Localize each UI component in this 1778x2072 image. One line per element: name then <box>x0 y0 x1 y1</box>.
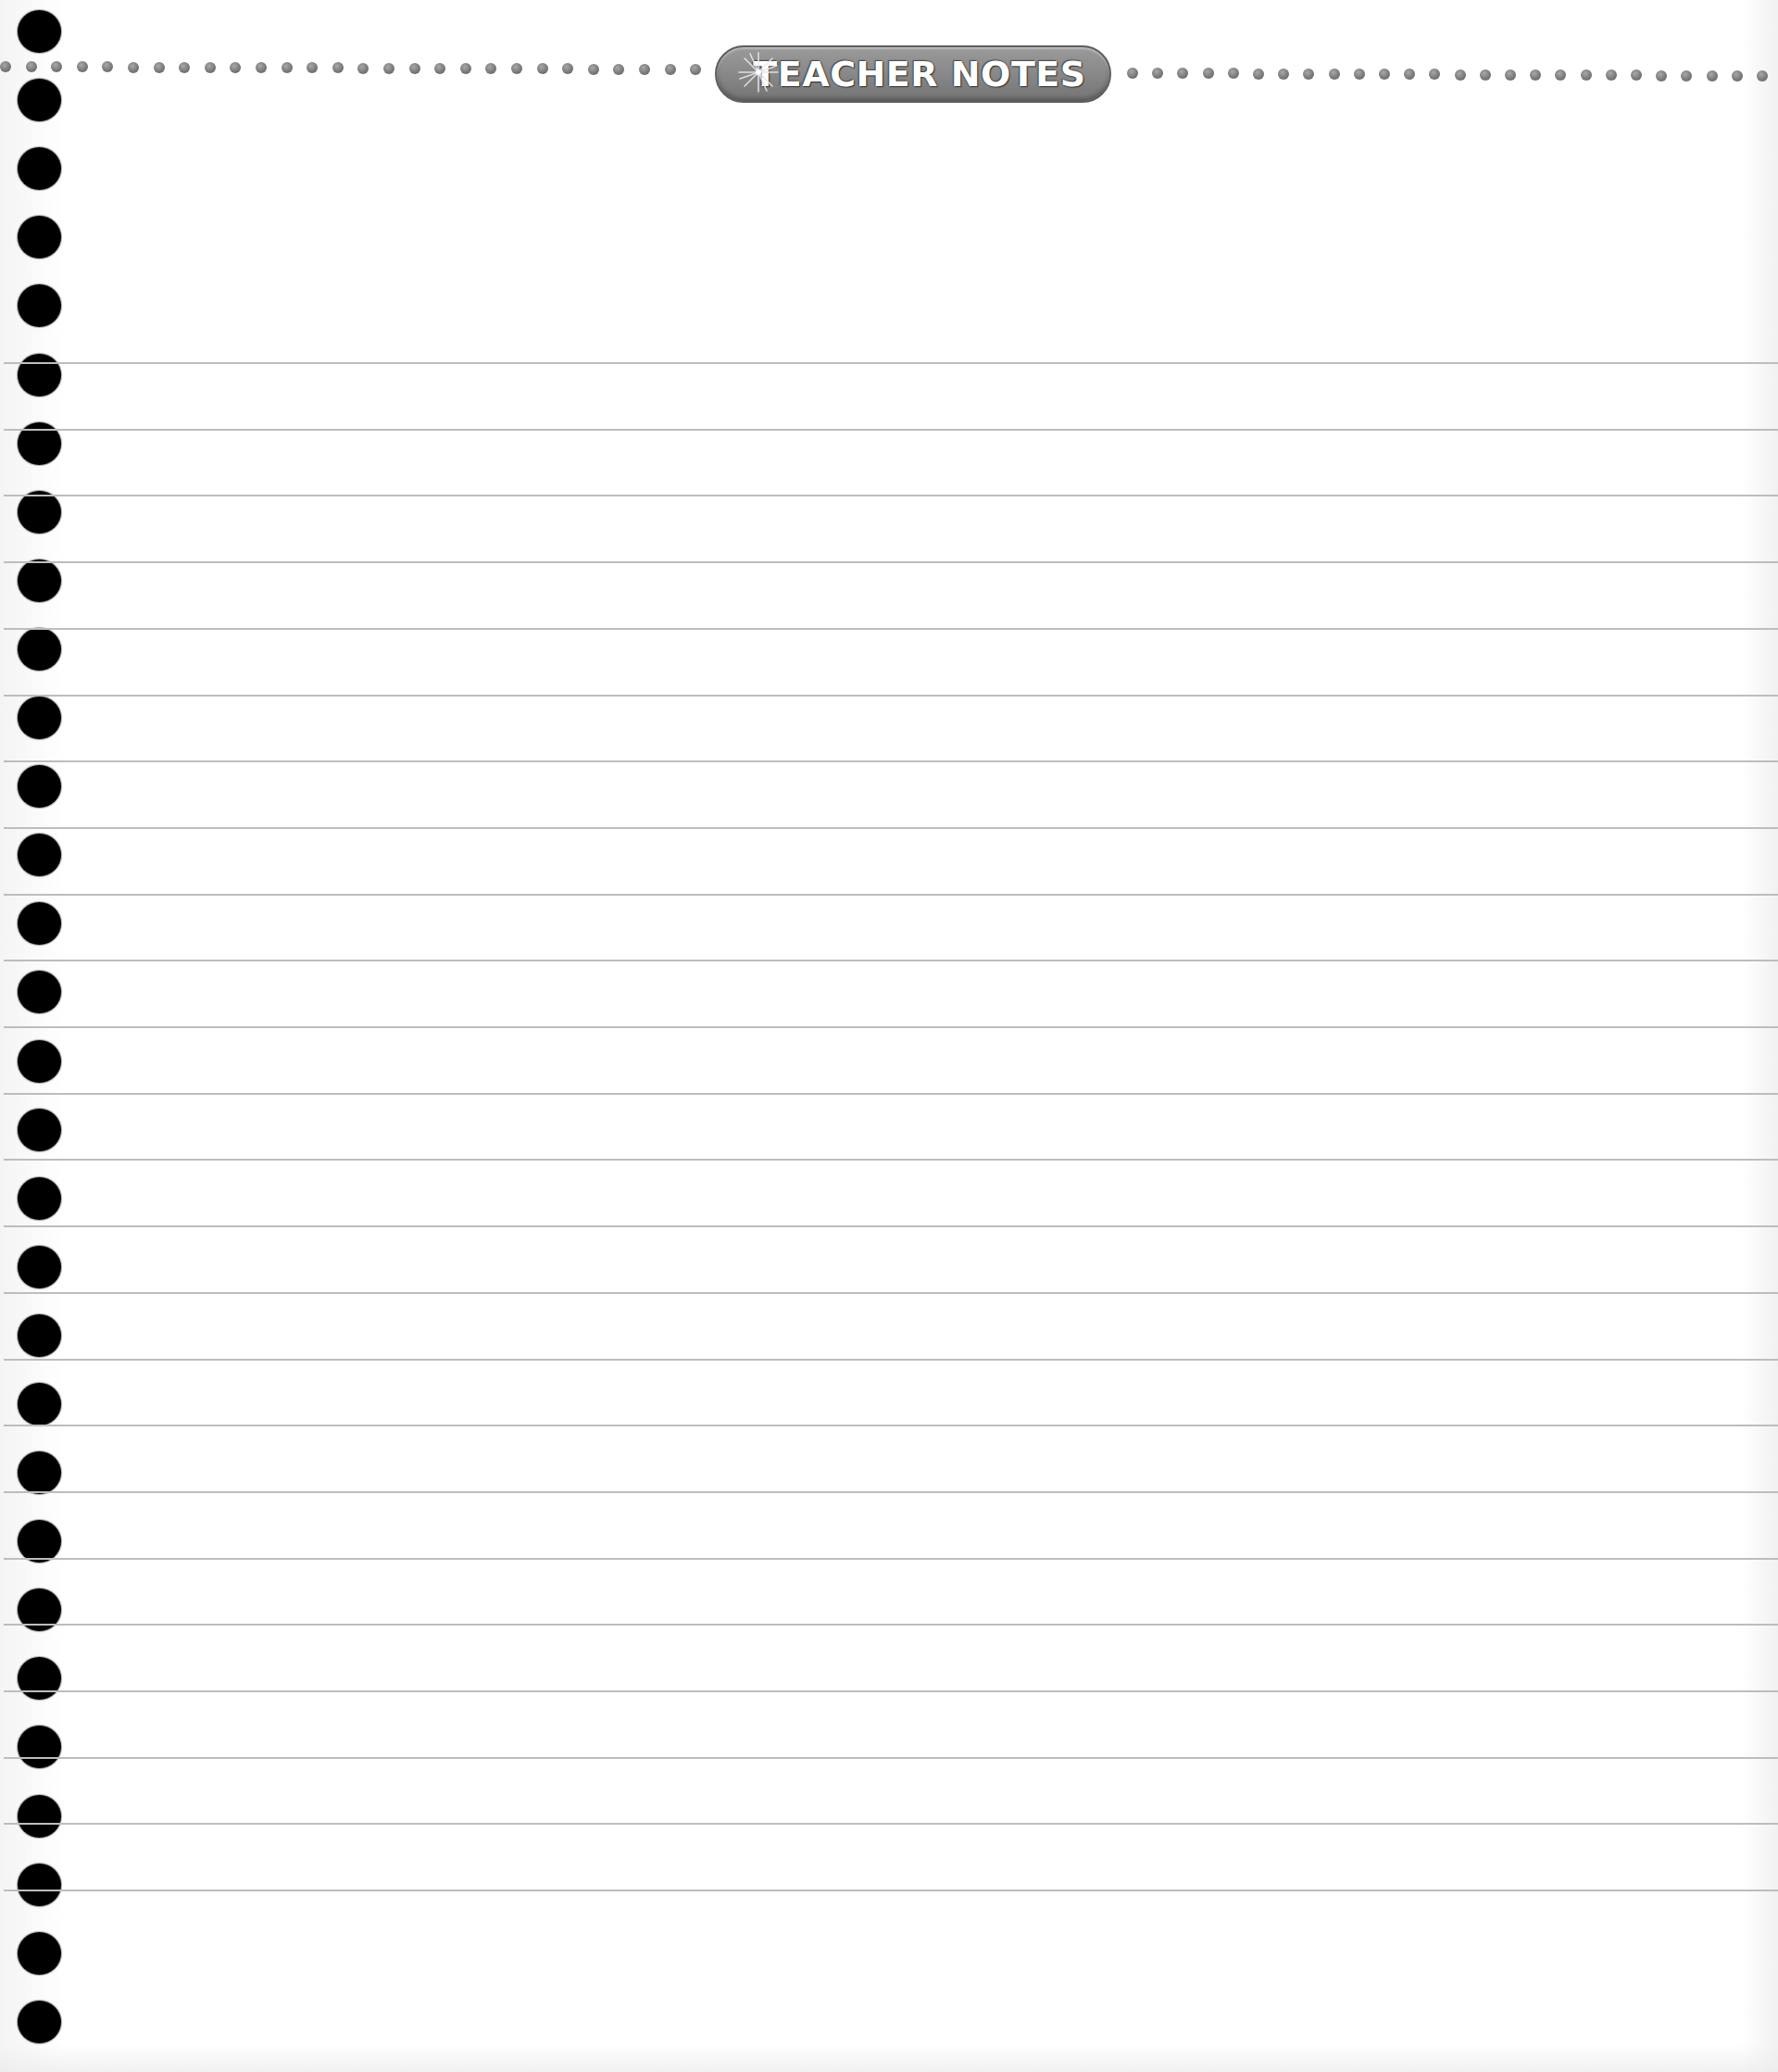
header-dot <box>1581 69 1592 81</box>
header-dot <box>205 62 216 73</box>
header-dot <box>588 64 599 75</box>
header-dot <box>1757 70 1768 82</box>
header-dot <box>0 61 11 72</box>
binder-hole <box>18 491 61 534</box>
header-dot <box>128 62 139 73</box>
ruled-line <box>4 1093 1778 1095</box>
header-dot <box>26 61 37 72</box>
header-dot <box>383 63 394 74</box>
binder-hole <box>18 1451 61 1494</box>
header-dot <box>460 63 471 74</box>
header-dot <box>230 62 241 73</box>
page-title: TEACHER NOTES <box>740 54 1085 94</box>
ruled-line <box>4 695 1778 697</box>
ruled-line <box>4 1890 1778 1891</box>
ruled-line <box>4 1624 1778 1626</box>
header-dot <box>434 63 445 74</box>
ruled-line <box>4 1491 1778 1493</box>
ruled-line <box>4 495 1778 496</box>
header-dot <box>179 62 190 73</box>
header-dot <box>1203 68 1214 79</box>
header-dot <box>665 64 676 75</box>
header-dot <box>613 64 624 75</box>
binder-hole <box>18 10 61 53</box>
binder-hole <box>18 628 61 671</box>
header-dot <box>1354 69 1365 80</box>
header-dot <box>537 63 548 74</box>
ruled-line <box>4 760 1778 762</box>
header-dot <box>1253 69 1264 80</box>
header-dot <box>357 63 369 74</box>
header-dot <box>1278 69 1289 80</box>
binder-hole <box>18 1657 61 1700</box>
ruled-line <box>4 1026 1778 1028</box>
header-dot <box>1681 70 1692 82</box>
header-dot <box>154 62 165 73</box>
header-dot <box>511 63 522 74</box>
header-dot <box>1505 69 1516 81</box>
binder-hole <box>18 1932 61 1975</box>
binder-hole <box>18 354 61 396</box>
ruled-line <box>4 1359 1778 1361</box>
binder-hole <box>18 559 61 602</box>
ruled-line <box>4 429 1778 431</box>
binder-hole <box>18 1246 61 1288</box>
header-dot <box>1732 70 1743 82</box>
binder-hole <box>18 697 61 739</box>
binder-hole <box>18 765 61 808</box>
binder-hole <box>18 1520 61 1563</box>
header-dot <box>51 61 62 72</box>
ruled-line <box>4 1558 1778 1560</box>
header-dot <box>256 62 267 73</box>
ruled-line <box>4 1159 1778 1161</box>
header-dot <box>332 62 344 73</box>
header-dot <box>1631 69 1642 81</box>
header-dot <box>485 63 496 74</box>
binder-hole <box>18 284 61 327</box>
header-dot <box>1303 69 1314 80</box>
ruled-line <box>4 1690 1778 1692</box>
binder-hole <box>18 79 61 121</box>
ruled-line <box>4 561 1778 563</box>
header-dot <box>1177 68 1188 79</box>
binder-hole <box>18 147 61 190</box>
header-dot <box>102 61 113 72</box>
binder-hole <box>18 1177 61 1220</box>
header-dot <box>282 62 293 73</box>
page-edge-shade <box>0 2044 1778 2072</box>
binder-hole <box>18 216 61 258</box>
ruled-line <box>4 1292 1778 1294</box>
header-dot <box>307 62 318 73</box>
binder-hole <box>18 971 61 1013</box>
header-dot <box>562 63 573 74</box>
header-dot <box>1455 69 1466 81</box>
binder-hole <box>18 834 61 876</box>
header-dot <box>1480 69 1491 81</box>
header-dot <box>1555 69 1566 81</box>
binder-hole <box>18 2001 61 2043</box>
binder-hole <box>18 1109 61 1151</box>
binder-hole <box>18 1040 61 1083</box>
binder-hole <box>18 1314 61 1357</box>
ruled-line <box>4 960 1778 961</box>
header-dot <box>639 64 650 75</box>
binder-hole <box>18 1726 61 1768</box>
header-dot <box>1329 69 1340 80</box>
binder-hole <box>18 1795 61 1838</box>
header-dot <box>77 61 88 72</box>
binder-hole <box>18 1864 61 1906</box>
header-dot <box>409 63 420 74</box>
ruled-line <box>4 1823 1778 1825</box>
ruled-line <box>4 1425 1778 1426</box>
header-dot <box>1606 69 1617 81</box>
header-dot <box>690 64 701 75</box>
ruled-line <box>4 362 1778 364</box>
header-dot <box>1707 70 1718 82</box>
header-dot <box>1530 69 1541 81</box>
ruled-line <box>4 827 1778 829</box>
ruled-line <box>4 894 1778 896</box>
ruled-line <box>4 628 1778 630</box>
teacher-notes-badge: TEACHER NOTES <box>715 45 1111 103</box>
header-dot <box>1404 69 1415 80</box>
binder-hole <box>18 902 61 945</box>
